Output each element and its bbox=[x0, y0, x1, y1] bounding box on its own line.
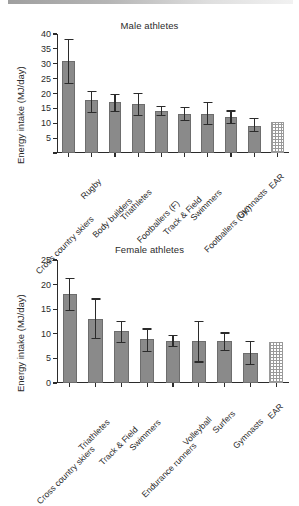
bar-ear bbox=[271, 122, 284, 153]
x-tick bbox=[138, 153, 139, 157]
error-bar-cap bbox=[64, 83, 73, 84]
error-bar bbox=[68, 39, 69, 83]
error-bar-cap bbox=[246, 341, 255, 342]
x-tick bbox=[276, 383, 277, 387]
error-bar-cap bbox=[203, 124, 212, 125]
y-tick bbox=[53, 309, 57, 310]
y-tick-label: 5 bbox=[46, 353, 51, 363]
y-tick-label: 10 bbox=[41, 329, 51, 339]
y-tick-label: 35 bbox=[41, 44, 51, 54]
x-tick-label: Surfers bbox=[210, 409, 237, 436]
error-bar-cap bbox=[91, 338, 100, 339]
x-tick bbox=[254, 153, 255, 157]
error-bar-cap bbox=[227, 110, 236, 111]
plot-area-female: 0510152025Cross country skiersTriathlete… bbox=[0, 240, 299, 458]
x-tick bbox=[224, 383, 225, 387]
y-tick-label: 10 bbox=[41, 118, 51, 128]
error-bar-cap bbox=[250, 118, 259, 119]
bar-ear bbox=[269, 342, 283, 383]
error-bar-cap bbox=[111, 111, 120, 112]
error-bar-cap bbox=[169, 335, 178, 336]
error-bar bbox=[69, 278, 70, 309]
y-tick bbox=[53, 123, 57, 124]
y-tick bbox=[53, 333, 57, 334]
error-bar-cap bbox=[250, 131, 259, 132]
x-tick bbox=[161, 153, 162, 157]
error-bar bbox=[172, 335, 173, 345]
y-tick-label: 25 bbox=[41, 74, 51, 84]
error-bar bbox=[91, 91, 92, 112]
x-tick-label: Gymnasts bbox=[235, 186, 269, 220]
error-bar-cap bbox=[87, 91, 96, 92]
error-bar-cap bbox=[143, 328, 152, 329]
x-tick bbox=[68, 153, 69, 157]
y-tick bbox=[53, 152, 57, 153]
error-bar-cap bbox=[134, 93, 143, 94]
error-bar-cap bbox=[111, 94, 120, 95]
error-bar bbox=[198, 321, 199, 361]
error-bar bbox=[254, 118, 255, 131]
y-tick bbox=[53, 33, 57, 34]
chart-male-athletes: Male athletes Energy intake (MJ/day) 510… bbox=[0, 14, 299, 230]
y-tick bbox=[53, 382, 57, 383]
error-bar-cap bbox=[117, 321, 126, 322]
error-bar-cap bbox=[203, 102, 212, 103]
error-bar-cap bbox=[194, 321, 203, 322]
error-bar bbox=[230, 110, 231, 122]
y-tick-label: 15 bbox=[41, 304, 51, 314]
error-bar-cap bbox=[157, 106, 166, 107]
x-tick bbox=[230, 153, 231, 157]
x-tick-label: Volleyball bbox=[181, 415, 214, 448]
plot-area-male: 510152025303540Cross country skiersRugby… bbox=[0, 14, 299, 230]
error-bar-cap bbox=[143, 351, 152, 352]
bar bbox=[166, 341, 180, 383]
y-tick bbox=[53, 284, 57, 285]
error-bar-cap bbox=[180, 107, 189, 108]
x-tick-label: Rugby bbox=[78, 176, 103, 201]
x-tick bbox=[69, 383, 70, 387]
axes-female: 0510152025Cross country skiersTriathlete… bbox=[57, 260, 289, 383]
error-bar-cap bbox=[64, 39, 73, 40]
axes-male: 510152025303540Cross country skiersRugby… bbox=[57, 34, 289, 153]
error-bar bbox=[121, 321, 122, 342]
x-tick bbox=[95, 383, 96, 387]
y-tick bbox=[53, 358, 57, 359]
error-bar-cap bbox=[169, 346, 178, 347]
y-tick bbox=[53, 138, 57, 139]
x-tick-label: Endurance runners bbox=[140, 441, 199, 500]
error-bar bbox=[250, 341, 251, 364]
error-bar bbox=[147, 328, 148, 350]
y-axis-line bbox=[57, 34, 58, 153]
bar bbox=[155, 111, 168, 153]
x-tick bbox=[250, 383, 251, 387]
y-tick-label: 20 bbox=[41, 280, 51, 290]
error-bar-cap bbox=[227, 123, 236, 124]
error-bar bbox=[224, 332, 225, 350]
y-tick-label: 40 bbox=[41, 29, 51, 39]
y-axis-line bbox=[57, 260, 58, 383]
error-bar-cap bbox=[157, 115, 166, 116]
y-tick bbox=[53, 48, 57, 49]
error-bar-cap bbox=[220, 332, 229, 333]
x-tick-label: EAR bbox=[267, 171, 287, 191]
x-tick bbox=[277, 153, 278, 157]
x-tick-label: EAR bbox=[266, 401, 286, 421]
y-tick-label: 15 bbox=[41, 103, 51, 113]
error-bar-cap bbox=[134, 115, 143, 116]
error-bar-cap bbox=[180, 120, 189, 121]
y-tick bbox=[53, 108, 57, 109]
y-tick-label: 30 bbox=[41, 59, 51, 69]
x-tick bbox=[114, 153, 115, 157]
error-bar-cap bbox=[65, 278, 74, 279]
x-tick-label: Gymnasts bbox=[231, 416, 265, 450]
y-tick bbox=[53, 78, 57, 79]
error-bar-cap bbox=[65, 310, 74, 311]
error-bar-cap bbox=[91, 298, 100, 299]
error-bar-cap bbox=[246, 364, 255, 365]
y-tick-label: 5 bbox=[46, 133, 51, 143]
error-bar bbox=[207, 102, 208, 124]
x-tick bbox=[121, 383, 122, 387]
x-tick bbox=[184, 153, 185, 157]
y-tick-label: 25 bbox=[41, 255, 51, 265]
error-bar-cap bbox=[117, 342, 126, 343]
